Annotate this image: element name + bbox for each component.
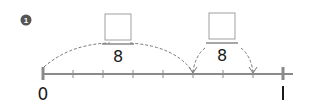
problem-number-badge: 1: [21, 15, 32, 26]
denominator-1: 8: [113, 47, 123, 66]
label-zero: 0: [38, 84, 49, 104]
number-line-diagram: 1 8 8 0: [0, 0, 309, 111]
fraction-2: 8: [206, 13, 238, 65]
jump-arc-2-left: [193, 48, 205, 72]
number-line: 0: [38, 67, 293, 104]
problem-number: 1: [24, 16, 29, 25]
fraction-1: 8: [102, 14, 134, 66]
jump-arc-2-right: [241, 48, 253, 72]
denominator-2: 8: [217, 46, 227, 65]
label-one: [282, 86, 284, 100]
numerator-answer-box-2[interactable]: [209, 13, 235, 39]
numerator-answer-box-1[interactable]: [105, 14, 131, 40]
